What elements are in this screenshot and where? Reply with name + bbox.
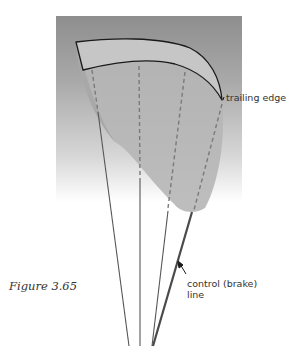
arrow-icon (178, 261, 186, 274)
trailing-edge-label: trailing edge (226, 92, 286, 103)
canopy-diagram (0, 0, 300, 362)
control-line-label: control (brake) line (187, 278, 257, 300)
paraglider-figure: · · · · trailing edge c (0, 0, 300, 362)
control-line-label-2: line (187, 289, 257, 300)
control-line-label-1: control (brake) (187, 278, 257, 289)
figure-caption: Figure 3.65 (9, 279, 77, 293)
